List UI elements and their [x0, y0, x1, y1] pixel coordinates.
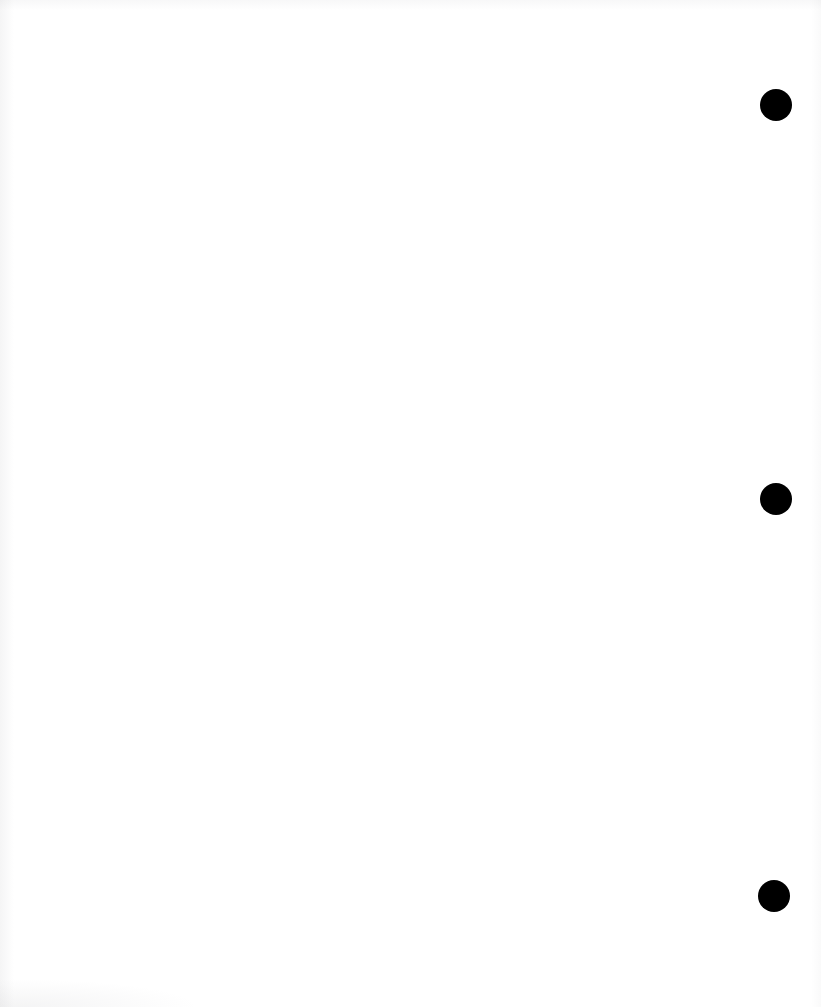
mark-dot-middle [760, 483, 792, 515]
scan-noise-left-edge [0, 0, 14, 1007]
scan-noise-top-edge [0, 0, 821, 10]
scanned-page [0, 0, 821, 1007]
scan-noise-bottom-left-corner [0, 979, 200, 1007]
scan-noise-right-edge [811, 0, 821, 1007]
mark-dot-bottom [758, 880, 790, 912]
mark-dot-top [760, 89, 792, 121]
